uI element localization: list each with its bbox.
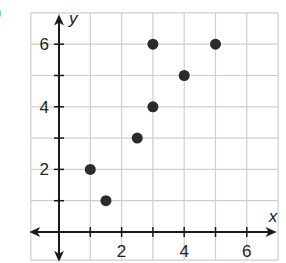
data-point bbox=[147, 39, 158, 50]
y-tick-label: 4 bbox=[40, 98, 49, 117]
scatter-plot: 246246xy bbox=[0, 0, 286, 263]
x-tick-label: 6 bbox=[242, 242, 251, 261]
data-point bbox=[85, 164, 96, 175]
x-tick-label: 2 bbox=[117, 242, 126, 261]
x-tick-label: 4 bbox=[179, 242, 188, 261]
x-axis-label: x bbox=[268, 207, 278, 226]
y-tick-label: 2 bbox=[40, 160, 49, 179]
data-point bbox=[179, 70, 190, 81]
data-point bbox=[147, 101, 158, 112]
y-axis-label: y bbox=[68, 9, 79, 28]
data-point bbox=[132, 133, 143, 144]
y-tick-label: 6 bbox=[40, 35, 49, 54]
data-point bbox=[210, 39, 221, 50]
data-point bbox=[100, 195, 111, 206]
